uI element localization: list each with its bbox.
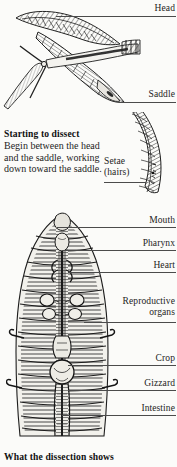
label-crop: Crop [156,353,175,364]
setae-leader-line [104,182,146,183]
label-head: Head [155,3,175,14]
label-heart: Heart [153,260,175,271]
label-reproductive-organs-line2: organs [113,307,175,318]
pharynx-leader-line [62,250,176,251]
crop-leader-line [68,365,176,366]
saddle-leader-line [119,102,176,103]
starting-to-dissect-body: Begin between the head and the saddle, w… [4,140,108,175]
label-pharynx: Pharynx [143,238,175,249]
earthworm-being-cut-with-scissors [2,2,142,110]
mouth-leader-line [57,227,176,228]
dissected-earthworm-internal-anatomy [6,212,118,440]
label-mouth: Mouth [149,215,175,226]
what-the-dissection-shows-heading: What the dissection shows [4,451,114,462]
label-saddle: Saddle [149,89,175,100]
head-leader-line [56,16,176,17]
reproductive-organs-leader-line [84,322,176,323]
worksheet-page: Head Saddle [0,0,177,467]
gizzard-leader-line [68,390,176,391]
earthworm-segment-setae-closeup [120,112,177,200]
intestine-leader-line [62,415,176,416]
label-reproductive-organs-line1: Reproductive [113,296,175,307]
label-intestine: Intestine [141,403,175,414]
starting-to-dissect-heading: Starting to dissect [4,128,79,139]
heart-leader-line [68,272,176,273]
label-gizzard: Gizzard [144,378,175,389]
